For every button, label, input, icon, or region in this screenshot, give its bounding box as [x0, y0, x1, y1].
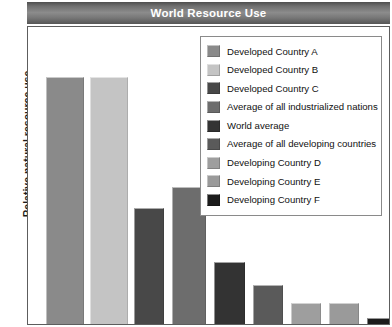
- legend-item[interactable]: Developed Country B: [207, 61, 375, 80]
- legend-swatch-icon: [207, 64, 220, 76]
- legend-item[interactable]: Developed Country A: [207, 42, 375, 61]
- chart-figure: World Resource Use Relative natural reso…: [0, 0, 392, 327]
- legend-swatch-icon: [207, 194, 220, 206]
- legend-swatch-icon: [207, 138, 220, 150]
- legend-item-label: Developed Country B: [227, 65, 318, 75]
- legend-item-label: Developing Country F: [227, 195, 320, 205]
- bar-fill: [367, 318, 390, 324]
- legend-item[interactable]: World average: [207, 116, 375, 135]
- legend-item-label: Developed Country A: [227, 47, 318, 57]
- legend-item[interactable]: Average of all industrialized nations: [207, 98, 375, 117]
- bar: [134, 208, 164, 324]
- legend-swatch-icon: [207, 45, 220, 57]
- legend-item[interactable]: Developing Country E: [207, 172, 375, 191]
- bar: [214, 262, 245, 324]
- legend-item[interactable]: Developing Country F: [207, 191, 375, 210]
- bar: [329, 303, 359, 324]
- bar-fill: [46, 77, 84, 324]
- legend-swatch-icon: [207, 175, 220, 187]
- bar: [291, 303, 321, 324]
- legend-item-label: Average of all industrialized nations: [227, 102, 378, 112]
- chart-title-bar: World Resource Use: [27, 2, 390, 24]
- legend-item[interactable]: Developing Country D: [207, 154, 375, 173]
- bar: [253, 285, 283, 324]
- legend-item-label: Developing Country D: [227, 158, 321, 168]
- legend-swatch-icon: [207, 101, 220, 113]
- bar: [367, 318, 390, 324]
- legend-item-label: World average: [227, 121, 289, 131]
- legend-item-label: Developed Country C: [227, 84, 319, 94]
- legend-swatch-icon: [207, 157, 220, 169]
- bar: [90, 77, 128, 324]
- bar: [46, 77, 84, 324]
- bar-fill: [291, 303, 321, 324]
- chart-legend: Developed Country ADeveloped Country BDe…: [200, 36, 382, 216]
- bar-fill: [253, 285, 283, 324]
- legend-item-label: Developing Country E: [227, 177, 320, 187]
- legend-item-label: Average of all developing countries: [227, 139, 376, 149]
- legend-swatch-icon: [207, 82, 220, 94]
- page-title: World Resource Use: [151, 7, 267, 19]
- legend-item[interactable]: Developed Country C: [207, 79, 375, 98]
- legend-item[interactable]: Average of all developing countries: [207, 135, 375, 154]
- legend-swatch-icon: [207, 120, 220, 132]
- bar-fill: [214, 262, 245, 324]
- bar-fill: [329, 303, 359, 324]
- bar-fill: [134, 208, 164, 324]
- bar-fill: [90, 77, 128, 324]
